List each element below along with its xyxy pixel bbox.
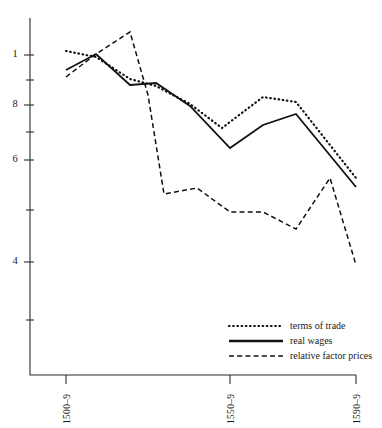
legend-swatch-solid-icon — [228, 335, 284, 347]
chart-canvas — [0, 0, 382, 428]
chart-legend: terms of trade real wages relative facto… — [228, 318, 380, 363]
x-axis-label-1550: 1550–9 — [226, 394, 236, 424]
legend-label-terms-of-trade: terms of trade — [284, 320, 346, 331]
legend-label-real-wages: real wages — [284, 335, 332, 346]
legend-label-relative-factor-prices: relative factor prices — [284, 350, 372, 361]
y-axis-label-0-8: 8 — [2, 98, 18, 109]
legend-item-terms-of-trade: terms of trade — [228, 318, 380, 333]
x-axis-label-1590: 1590–9 — [352, 394, 362, 424]
x-axis-label-1500: 1500–9 — [62, 394, 72, 424]
legend-swatch-dotted-icon — [228, 320, 284, 332]
legend-item-relative-factor-prices: relative factor prices — [228, 348, 380, 363]
y-axis-label-1-0: 1 — [2, 48, 18, 59]
chart-figure: 1 8 6 4 1500–9 1550–9 1590–9 terms of tr… — [0, 0, 382, 428]
y-axis-label-0-4: 4 — [2, 255, 18, 266]
legend-item-real-wages: real wages — [228, 333, 380, 348]
y-axis-label-0-6: 6 — [2, 153, 18, 164]
legend-swatch-dashed-icon — [228, 350, 284, 362]
series-terms-of-trade — [66, 51, 356, 178]
